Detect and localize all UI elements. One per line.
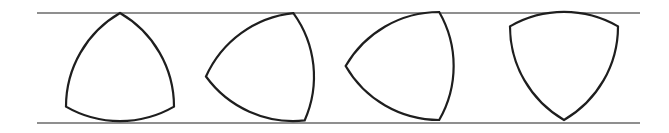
reuleaux-triangle-4	[510, 12, 618, 120]
reuleaux-triangle-2	[206, 13, 314, 121]
reuleaux-triangle-3	[346, 12, 454, 120]
reuleaux-rolling-diagram	[0, 0, 669, 133]
reuleaux-triangle-1	[66, 13, 174, 121]
